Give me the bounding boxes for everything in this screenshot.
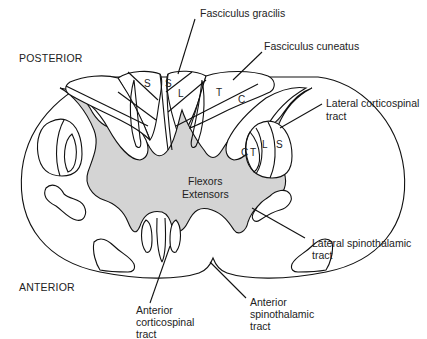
label-lateral-spinothalamic-1: Lateral spinothalamic (312, 237, 411, 249)
label-fasciculus-cuneatus: Fasciculus cuneatus (264, 40, 359, 52)
anterior-label: ANTERIOR (19, 281, 75, 293)
lct-t: T (250, 147, 256, 158)
label-lateral-corticospinal-1: Lateral corticospinal (326, 97, 419, 109)
spinal-cord-diagram: POSTERIOR ANTERIOR Fasciculus gracilis F… (0, 0, 427, 339)
gracilis-right-s: S (165, 78, 172, 89)
label-extensors: Extensors (182, 188, 229, 200)
lct-s: S (276, 139, 283, 150)
gracilis-right-l: L (178, 88, 184, 99)
lct-c: C (241, 147, 248, 158)
gracilis-left-s: S (144, 78, 151, 89)
label-lateral-spinothalamic-2: tract (312, 249, 333, 261)
label-anterior-spinothalamic-1: Anterior (250, 296, 287, 308)
label-anterior-spinothalamic-3: tract (250, 320, 271, 332)
cuneatus-c: C (238, 94, 245, 105)
label-anterior-corticospinal-1: Anterior (136, 304, 173, 316)
label-anterior-corticospinal-3: tract (136, 328, 157, 339)
label-anterior-spinothalamic-2: spinothalamic (250, 308, 314, 320)
label-fasciculus-gracilis: Fasciculus gracilis (200, 7, 285, 19)
lct-l: L (262, 139, 268, 150)
label-flexors: Flexors (188, 175, 222, 187)
cuneatus-t: T (216, 87, 222, 98)
label-lateral-corticospinal-2: tract (326, 110, 347, 122)
label-anterior-corticospinal-2: corticospinal (136, 316, 194, 328)
lateral-corticospinal-tract-left (38, 119, 83, 176)
posterior-label: POSTERIOR (19, 52, 83, 64)
leader-fasciculus-gracilis (178, 19, 195, 74)
